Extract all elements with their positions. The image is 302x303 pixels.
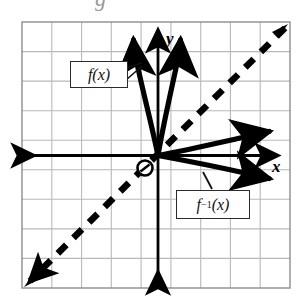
- f-inverse-argument: (x): [212, 197, 230, 213]
- y-axis-label: y: [164, 29, 174, 48]
- function-inverse-graph-figure: g: [0, 0, 302, 303]
- callout-label-f-inverse: f−1(x): [176, 190, 250, 219]
- x-axis-label: x: [271, 157, 281, 176]
- callout-label-fx: f(x): [70, 61, 128, 88]
- origin-marker: [138, 161, 153, 176]
- coordinate-plane-svg: y x: [0, 0, 302, 303]
- f-inverse-exponent: −1: [201, 200, 212, 210]
